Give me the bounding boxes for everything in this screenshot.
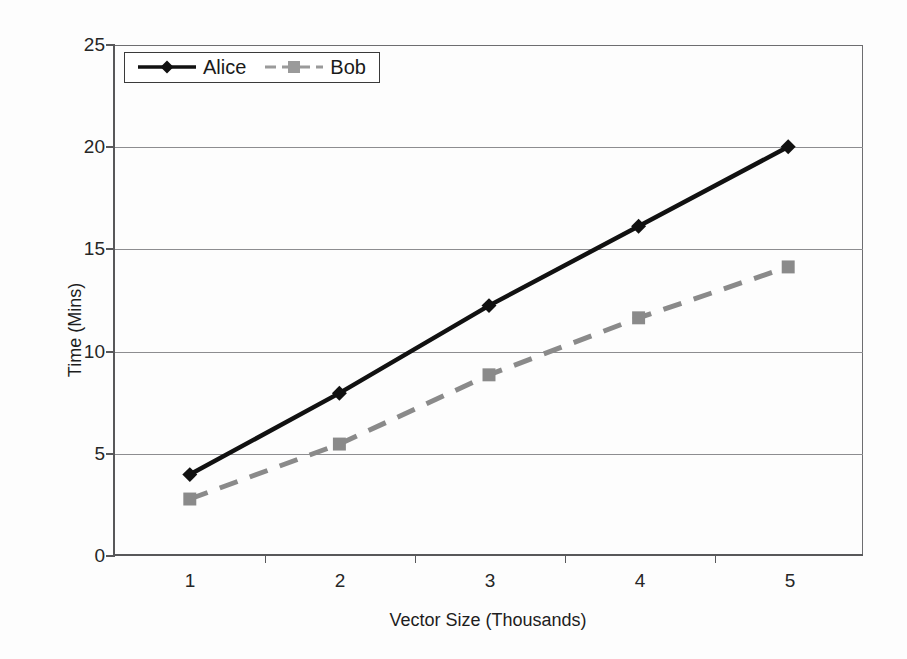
x-tick-mark	[415, 554, 416, 563]
x-tick-label: 2	[335, 570, 346, 592]
legend-entry-alice: Alice	[136, 57, 246, 77]
x-tick-mark	[565, 554, 566, 563]
x-tick-label: 5	[785, 570, 796, 592]
data-point-bob	[333, 438, 346, 451]
y-tick-mark	[106, 248, 115, 250]
x-tick-mark	[715, 554, 716, 563]
y-tick-mark	[106, 351, 115, 353]
chart-legend: Alice Bob	[124, 52, 380, 83]
x-axis-title: Vector Size (Thousands)	[113, 610, 863, 631]
legend-label-bob: Bob	[330, 57, 366, 77]
y-tick-label: 10	[84, 341, 105, 363]
data-point-bob	[483, 368, 496, 381]
y-tick-label: 15	[84, 238, 105, 260]
plot-area: 0510152025 12345 Alice Bob	[113, 45, 863, 556]
y-tick-label: 20	[84, 136, 105, 158]
x-tick-label: 1	[185, 570, 196, 592]
data-point-bob	[183, 493, 196, 506]
x-tick-label: 4	[635, 570, 646, 592]
y-tick-mark	[106, 453, 115, 455]
chart-page: Time (Mins) 0510152025 12345 Alice Bob	[0, 0, 907, 659]
data-point-bob	[782, 260, 795, 273]
y-tick-mark	[106, 146, 115, 148]
x-tick-label: 3	[485, 570, 496, 592]
legend-swatch-alice-line-icon	[136, 57, 198, 77]
legend-label-alice: Alice	[203, 57, 246, 77]
y-tick-mark	[106, 555, 115, 557]
series-layer	[115, 45, 863, 554]
legend-entry-bob: Bob	[263, 57, 366, 77]
data-point-bob	[632, 311, 645, 324]
legend-swatch-bob-line-icon	[263, 57, 325, 77]
x-tick-mark	[265, 554, 266, 563]
y-axis-title: Time (Mins)	[65, 282, 86, 376]
y-tick-label: 0	[94, 545, 105, 567]
y-tick-label: 5	[94, 443, 105, 465]
y-tick-label: 25	[84, 34, 105, 56]
y-tick-mark	[106, 44, 115, 46]
